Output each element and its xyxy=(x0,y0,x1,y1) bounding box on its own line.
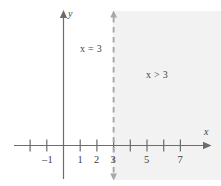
x-axis-label: x xyxy=(204,127,208,137)
tick-label-1: 1 xyxy=(78,155,83,166)
y-axis xyxy=(60,10,67,179)
tick-label-2: 2 xyxy=(94,155,99,166)
inequality-graph-figure: y x x = 3 x > 3 –1 1 2 3 5 7 xyxy=(0,0,221,186)
tick-label-minus-1: –1 xyxy=(42,155,53,166)
tick-label-3: 3 xyxy=(111,155,116,166)
line-equation-label: x = 3 xyxy=(80,44,102,54)
tick-label-7: 7 xyxy=(178,155,183,166)
shaded-region-x-greater-than-3 xyxy=(113,11,221,180)
region-inequality-label: x > 3 xyxy=(146,70,168,80)
tick-label-5: 5 xyxy=(144,155,149,166)
y-axis-label: y xyxy=(68,9,72,19)
